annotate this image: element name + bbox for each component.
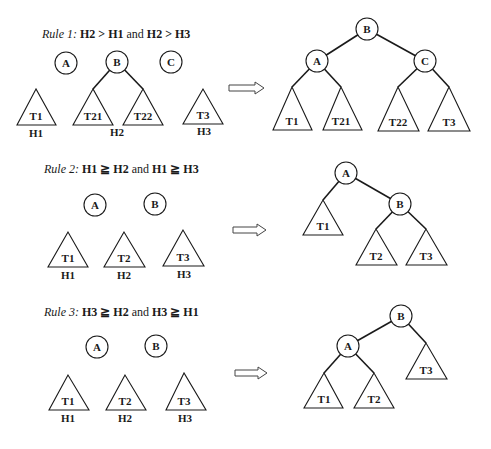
subtree-t3: T3 [163, 230, 204, 266]
node-a: A [86, 336, 108, 358]
node-c: C [414, 50, 436, 72]
rule-title-prefix: Rule 1: [41, 27, 80, 41]
after-state: T1T21T22T3BAC [273, 18, 470, 131]
after-state: T1T2T3AB [303, 162, 447, 265]
subtree-t3: T3 [428, 87, 470, 131]
node-label: A [313, 55, 321, 67]
subtree-label: T1 [318, 393, 331, 405]
rule-1: Rule 1: H2 > H1 and H2 > H3T1T21T22T3ABC… [17, 18, 470, 139]
after-state: T1T2T3BA [304, 305, 447, 408]
subtree-t1: T1 [17, 89, 56, 125]
height-label: H3 [197, 125, 212, 137]
subtree-label: T2 [119, 395, 132, 407]
subtree-label: T22 [134, 110, 153, 122]
node-label: B [396, 198, 404, 210]
rule-title: Rule 1: H2 > H1 and H2 > H3 [41, 27, 190, 41]
node-b: B [389, 193, 411, 215]
node-label: C [421, 55, 429, 67]
subtree-label: T1 [286, 115, 299, 127]
subtree-label: T21 [332, 115, 350, 127]
subtree-label: T2 [368, 393, 381, 405]
rule-title-and: and [129, 305, 152, 319]
before-state: T1T21T22T3ABCH1H2H3 [17, 51, 223, 139]
height-label: H1 [61, 412, 75, 424]
rule-title-cond1: H3 ≧ H2 [82, 305, 129, 319]
subtree-t22: T22 [378, 87, 419, 131]
rule-3: Rule 3: H3 ≧ H2 and H3 ≧ H1T1T2T3ABH1H2H… [43, 305, 447, 424]
transform-arrow-icon [233, 224, 266, 236]
height-label: H2 [117, 269, 132, 281]
rule-title-prefix: Rule 3: [43, 305, 82, 319]
node-label: B [363, 23, 371, 35]
node-b: B [144, 193, 166, 215]
node-label: A [62, 57, 70, 69]
subtree-t21: T21 [73, 89, 113, 125]
height-label: H2 [110, 126, 125, 138]
rule-title: Rule 2: H1 ≧ H2 and H1 ≧ H3 [43, 162, 199, 176]
subtree-t1: T1 [304, 373, 343, 408]
node-b: B [356, 18, 378, 40]
subtree-label: T2 [370, 250, 383, 262]
node-b: B [145, 335, 167, 357]
rule-title-and: and [129, 162, 152, 176]
rule-title-cond2: H3 ≧ H1 [152, 305, 199, 319]
subtree-t3: T3 [183, 89, 223, 124]
subtree-t2: T2 [356, 229, 397, 265]
node-a: A [337, 335, 359, 357]
height-label: H1 [61, 269, 75, 281]
subtree-label: T3 [420, 364, 433, 376]
node-a: A [84, 194, 106, 216]
subtree-label: T3 [420, 250, 433, 262]
height-label: H3 [177, 268, 192, 280]
rule-title: Rule 3: H3 ≧ H2 and H3 ≧ H1 [43, 305, 199, 319]
subtree-label: T22 [389, 116, 408, 128]
node-label: B [113, 56, 121, 68]
node-a: A [55, 52, 77, 74]
subtree-label: T3 [177, 251, 190, 263]
node-b: B [390, 305, 412, 327]
node-label: B [152, 340, 160, 352]
transform-arrow-icon [229, 82, 264, 94]
subtree-label: T3 [178, 395, 191, 407]
subtree-t1: T1 [303, 200, 343, 235]
subtree-t22: T22 [123, 89, 163, 125]
subtree-t1: T1 [273, 87, 312, 130]
subtree-t2: T2 [104, 232, 145, 267]
subtree-label: T1 [62, 395, 75, 407]
subtree-t2: T2 [354, 373, 394, 408]
subtree-label: T3 [197, 109, 210, 121]
node-a: A [335, 162, 357, 184]
rule-2: Rule 2: H1 ≧ H2 and H1 ≧ H3T1T2T3ABH1H2H… [43, 162, 447, 281]
rule-title-cond1: H1 ≧ H2 [82, 162, 129, 176]
rule-title-prefix: Rule 2: [43, 162, 82, 176]
height-label: H3 [178, 412, 193, 424]
subtree-t1: T1 [48, 232, 88, 267]
subtree-label: T3 [443, 116, 456, 128]
before-state: T1T2T3ABH1H2H3 [49, 335, 206, 424]
height-label: H1 [29, 127, 43, 139]
node-label: A [93, 341, 101, 353]
subtree-label: T1 [30, 110, 43, 122]
rule-title-cond1: H2 > H1 [80, 27, 124, 41]
node-label: A [91, 199, 99, 211]
node-label: A [342, 167, 350, 179]
node-b: B [106, 51, 128, 73]
node-c: C [160, 51, 182, 73]
subtree-t3: T3 [166, 373, 206, 410]
node-label: B [397, 310, 405, 322]
height-label: H2 [118, 412, 133, 424]
node-label: B [151, 198, 159, 210]
subtree-label: T21 [84, 110, 102, 122]
rule-title-cond2: H2 > H3 [147, 27, 191, 41]
before-state: T1T2T3ABH1H2H3 [48, 193, 204, 281]
subtree-t1: T1 [49, 375, 89, 410]
subtree-t21: T21 [323, 87, 362, 130]
subtree-t3: T3 [406, 343, 447, 379]
subtree-t2: T2 [106, 375, 146, 410]
tree-rebalancing-diagram: Rule 1: H2 > H1 and H2 > H3T1T21T22T3ABC… [0, 0, 491, 449]
transform-arrow-icon [235, 367, 267, 379]
node-a: A [306, 50, 328, 72]
rule-title-cond2: H1 ≧ H3 [152, 162, 199, 176]
node-label: A [344, 340, 352, 352]
node-label: C [167, 56, 175, 68]
